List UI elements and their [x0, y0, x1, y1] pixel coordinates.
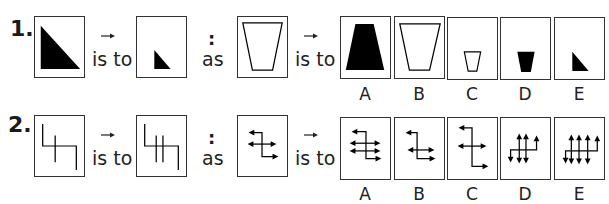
option-b-label: B	[394, 84, 444, 104]
option-d-box[interactable]	[500, 117, 551, 180]
as-label: as	[202, 147, 224, 169]
question-number: 2.	[8, 112, 32, 137]
option-a-box[interactable]	[340, 16, 391, 79]
stem-figure-3	[237, 115, 288, 177]
question-number: 1.	[10, 16, 34, 41]
colon-separator: :	[208, 127, 215, 148]
black-triangle-small-icon	[555, 18, 604, 79]
black-triangle-large-icon	[35, 17, 84, 77]
is-to-label: is to	[92, 48, 132, 70]
option-e-box[interactable]	[554, 17, 605, 80]
option-c-box[interactable]	[447, 117, 498, 180]
as-label: as	[202, 48, 224, 70]
option-c-label: C	[447, 184, 497, 204]
zigzag-line-two-cross-icon	[137, 116, 186, 176]
black-trapezoid-small-icon	[501, 18, 550, 79]
stem-figure-2	[136, 115, 187, 177]
zigzag-arrow-one-double-shifted-icon	[395, 118, 444, 179]
stem-figure-2	[136, 16, 187, 78]
right-arrow-icon	[304, 33, 318, 39]
stem-figure-3	[237, 16, 288, 78]
black-trapezoid-large-icon	[341, 17, 390, 78]
stem-figure-1	[34, 115, 85, 177]
option-a-label: A	[340, 184, 390, 204]
zigzag-arrow-one-double-icon	[238, 116, 287, 176]
is-to-label: is to	[295, 147, 335, 169]
zigzag-arrow-two-double-icon	[341, 118, 390, 179]
right-arrow-icon	[101, 33, 115, 39]
zigzag-arrow-long-icon	[448, 118, 497, 179]
option-d-box[interactable]	[500, 17, 551, 80]
white-trapezoid-small-icon	[448, 18, 497, 79]
rotated-zigzag-two-vertical-icon	[501, 118, 550, 179]
stem-figure-1	[34, 16, 85, 78]
option-a-label: A	[340, 84, 390, 104]
option-e-box[interactable]	[554, 117, 605, 180]
option-e-label: E	[554, 84, 604, 104]
is-to-label: is to	[92, 147, 132, 169]
option-b-box[interactable]	[394, 16, 445, 79]
black-triangle-small-icon	[137, 17, 186, 77]
is-to-label: is to	[295, 48, 335, 70]
option-b-label: B	[394, 184, 444, 204]
right-arrow-icon	[304, 132, 318, 138]
option-a-box[interactable]	[340, 117, 391, 180]
white-trapezoid-large-icon	[238, 17, 287, 77]
option-c-label: C	[447, 84, 497, 104]
colon-separator: :	[208, 28, 215, 49]
option-c-box[interactable]	[447, 17, 498, 80]
zigzag-line-one-cross-icon	[35, 116, 84, 176]
right-arrow-icon	[101, 132, 115, 138]
option-d-label: D	[500, 84, 550, 104]
option-d-label: D	[500, 184, 550, 204]
option-e-label: E	[554, 184, 604, 204]
white-trapezoid-large-icon	[395, 17, 444, 78]
rotated-zigzag-three-vertical-icon	[555, 118, 604, 179]
option-b-box[interactable]	[394, 117, 445, 180]
